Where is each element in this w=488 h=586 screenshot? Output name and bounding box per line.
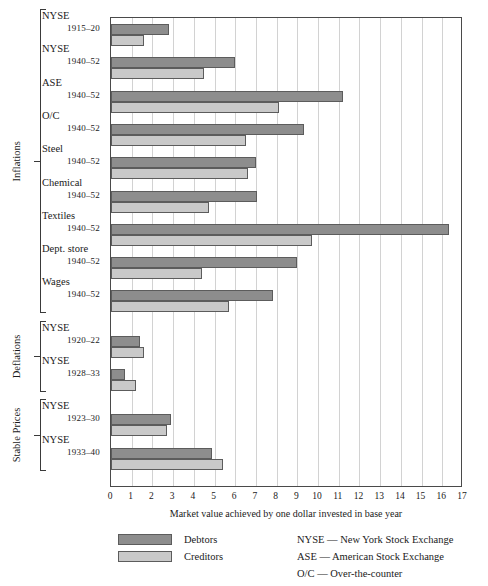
bar-creditors-8: [111, 301, 229, 312]
category-label: Steel1940–52: [0, 143, 104, 167]
bar-debtors-2: [111, 91, 343, 102]
x-tick-label: 1: [121, 491, 141, 501]
category-years: 1940–52: [0, 255, 104, 267]
x-tick-label: 16: [431, 491, 451, 501]
bar-debtors-8: [111, 290, 273, 301]
legend-swatch-debtors: [118, 534, 172, 545]
bar-debtors-10: [111, 369, 125, 380]
bar-debtors-11: [111, 414, 171, 425]
x-tick-label: 17: [452, 491, 472, 501]
category-label: NYSE1933–40: [0, 434, 104, 458]
category-years: 1940–52: [0, 189, 104, 201]
x-tick-label: 4: [183, 491, 203, 501]
x-tick-label: 9: [286, 491, 306, 501]
legend-label: Debtors: [184, 534, 217, 545]
category-years: 1923–30: [0, 412, 104, 424]
category-label: NYSE1928–33: [0, 355, 104, 379]
x-tick-label: 10: [307, 491, 327, 501]
bar-creditors-11: [111, 425, 167, 436]
bar-debtors-3: [111, 124, 304, 135]
category-name: ASE: [0, 77, 104, 89]
x-tick-label: 3: [162, 491, 182, 501]
x-tick-label: 5: [204, 491, 224, 501]
x-tick-label: 2: [141, 491, 161, 501]
category-name: Chemical: [0, 177, 104, 189]
category-years: 1940–52: [0, 155, 104, 167]
bar-debtors-12: [111, 448, 212, 459]
bars-layer: [111, 18, 461, 486]
chart-root: InflationsDeflationsStable Prices NYSE19…: [0, 0, 488, 586]
bar-creditors-10: [111, 380, 136, 391]
x-tick-label: 14: [390, 491, 410, 501]
x-axis-caption: Market value achieved by one dollar inve…: [110, 508, 462, 519]
category-years: 1940–52: [0, 55, 104, 67]
category-label: NYSE1920–22: [0, 322, 104, 346]
category-label: Dept. store1940–52: [0, 243, 104, 267]
category-name: Wages: [0, 276, 104, 288]
legend-label: Creditors: [184, 551, 223, 562]
plot-area: [110, 17, 462, 487]
bar-creditors-1: [111, 68, 204, 79]
category-label: NYSE1940–52: [0, 43, 104, 67]
bar-creditors-12: [111, 459, 223, 470]
category-years: 1928–33: [0, 367, 104, 379]
bar-creditors-3: [111, 135, 246, 146]
category-years: 1933–40: [0, 446, 104, 458]
category-label: ASE1940–52: [0, 77, 104, 101]
x-tick-label: 7: [245, 491, 265, 501]
bar-debtors-0: [111, 24, 169, 35]
category-years: 1940–52: [0, 222, 104, 234]
category-label: NYSE1923–30: [0, 400, 104, 424]
x-tick-label: 13: [369, 491, 389, 501]
category-name: O/C: [0, 110, 104, 122]
legend: DebtorsCreditors: [118, 531, 223, 565]
bar-creditors-6: [111, 235, 312, 246]
bar-debtors-1: [111, 57, 235, 68]
bar-debtors-6: [111, 224, 449, 235]
bar-debtors-5: [111, 191, 257, 202]
category-name: NYSE: [0, 355, 104, 367]
legend-item: Creditors: [118, 548, 223, 565]
x-tick-label: 11: [328, 491, 348, 501]
category-name: Dept. store: [0, 243, 104, 255]
x-tick-label: 6: [224, 491, 244, 501]
category-years: 1920–22: [0, 334, 104, 346]
abbreviation-note: O/C — Over-the-counter: [297, 565, 453, 582]
legend-item: Debtors: [118, 531, 223, 548]
bar-creditors-9: [111, 347, 144, 358]
x-tick-label: 12: [348, 491, 368, 501]
legend-swatch-creditors: [118, 551, 172, 562]
bracket-cap-bottom: [40, 312, 46, 313]
category-years: 1940–52: [0, 288, 104, 300]
x-tick-label: 15: [411, 491, 431, 501]
category-name: NYSE: [0, 43, 104, 55]
bar-creditors-7: [111, 268, 202, 279]
bracket-cap-bottom: [40, 391, 46, 392]
abbreviation-note: NYSE — New York Stock Exchange: [297, 531, 453, 548]
x-tick-label: 8: [266, 491, 286, 501]
bar-creditors-5: [111, 202, 209, 213]
bar-debtors-4: [111, 157, 256, 168]
bar-creditors-0: [111, 35, 144, 46]
category-years: 1940–52: [0, 89, 104, 101]
category-years: 1915–20: [0, 22, 104, 34]
category-name: NYSE: [0, 10, 104, 22]
category-label: Chemical1940–52: [0, 177, 104, 201]
category-label: Wages1940–52: [0, 276, 104, 300]
category-name: NYSE: [0, 434, 104, 446]
bar-creditors-2: [111, 102, 279, 113]
abbreviation-note: ASE — American Stock Exchange: [297, 548, 453, 565]
x-tick-label: 0: [100, 491, 120, 501]
bracket-cap-bottom: [40, 470, 46, 471]
category-name: Steel: [0, 143, 104, 155]
category-name: NYSE: [0, 322, 104, 334]
bar-debtors-9: [111, 336, 140, 347]
category-label: Textiles1940–52: [0, 210, 104, 234]
category-name: Textiles: [0, 210, 104, 222]
bar-debtors-7: [111, 257, 297, 268]
category-years: 1940–52: [0, 122, 104, 134]
abbreviation-notes: NYSE — New York Stock ExchangeASE — Amer…: [297, 531, 453, 582]
bar-creditors-4: [111, 168, 248, 179]
category-name: NYSE: [0, 400, 104, 412]
category-label: NYSE1915–20: [0, 10, 104, 34]
